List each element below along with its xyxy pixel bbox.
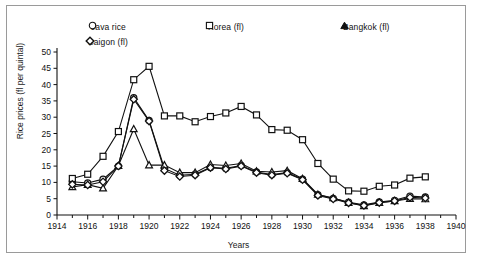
x-tick-label: 1916 xyxy=(78,221,97,231)
series-korea-fl xyxy=(69,63,428,194)
y-tick-label: 25 xyxy=(42,129,52,139)
x-tick-label: 1932 xyxy=(324,221,343,231)
square-marker xyxy=(85,171,91,177)
square-marker xyxy=(330,176,336,182)
x-tick-label: 1918 xyxy=(109,221,128,231)
plot-area: 0510152025303540455019141916191819201922… xyxy=(0,0,477,264)
series-java-rice xyxy=(69,95,428,208)
x-tick-label: 1920 xyxy=(140,221,159,231)
x-tick-label: 1924 xyxy=(201,221,220,231)
square-marker xyxy=(315,160,321,166)
square-marker xyxy=(207,114,213,120)
square-marker xyxy=(254,112,260,118)
y-tick-label: 10 xyxy=(42,177,52,187)
x-tick-label: 1926 xyxy=(232,221,251,231)
y-tick-label: 15 xyxy=(42,161,52,171)
y-tick-label: 40 xyxy=(42,80,52,90)
x-tick-label: 1934 xyxy=(354,221,373,231)
x-tick-label: 1940 xyxy=(447,221,466,231)
square-marker xyxy=(376,183,382,189)
y-tick-label: 30 xyxy=(42,112,52,122)
triangle-marker xyxy=(146,162,153,168)
square-marker xyxy=(269,127,275,133)
x-tick-label: 1930 xyxy=(293,221,312,231)
square-marker xyxy=(100,153,106,159)
square-marker xyxy=(161,113,167,119)
y-tick-label: 45 xyxy=(42,63,52,73)
x-tick-label: 1928 xyxy=(262,221,281,231)
y-tick-label: 20 xyxy=(42,145,52,155)
square-marker xyxy=(284,127,290,133)
series-line xyxy=(72,66,425,191)
triangle-marker xyxy=(130,125,137,131)
chart-figure: Java rice Saigon (fl) Korea (fl) Bangkok… xyxy=(0,0,477,264)
square-marker xyxy=(392,182,398,188)
y-tick-label: 0 xyxy=(46,210,51,220)
x-tick-label: 1914 xyxy=(48,221,67,231)
series-saigon-fl xyxy=(69,96,429,209)
square-marker xyxy=(223,110,229,116)
square-marker xyxy=(177,113,183,119)
y-tick-label: 50 xyxy=(42,47,52,57)
square-marker xyxy=(238,103,244,109)
square-marker xyxy=(422,174,428,180)
y-tick-label: 35 xyxy=(42,96,52,106)
y-tick-label: 5 xyxy=(46,194,51,204)
square-marker xyxy=(131,77,137,83)
square-marker xyxy=(192,119,198,125)
series-line xyxy=(72,129,425,206)
series-bangkok-fl xyxy=(69,125,429,208)
x-tick-label: 1938 xyxy=(416,221,435,231)
square-marker xyxy=(115,129,121,135)
x-tick-label: 1936 xyxy=(385,221,404,231)
square-marker xyxy=(346,188,352,194)
x-tick-label: 1922 xyxy=(170,221,189,231)
square-marker xyxy=(146,63,152,69)
square-marker xyxy=(300,137,306,143)
square-marker xyxy=(407,175,413,181)
series-line xyxy=(72,99,425,205)
square-marker xyxy=(361,188,367,194)
